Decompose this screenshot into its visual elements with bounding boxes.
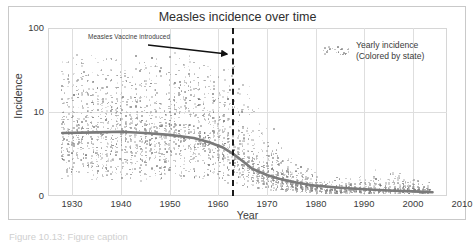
y-tick-100: 100 [28,22,44,33]
x-tick-2010: 2010 [452,198,473,209]
legend-swatch-dot [332,48,334,50]
legend-swatch-dot [329,48,331,50]
x-tick-1970: 1970 [257,198,278,209]
legend-swatch-dot [342,54,344,56]
legend-line-1: Yearly incidence [356,40,424,51]
x-axis-label: Year [48,209,447,221]
legend-swatch-dot [324,47,326,49]
x-tick-2000: 2000 [403,198,424,209]
y-tick-10: 10 [34,106,44,117]
x-tick-1940: 1940 [111,198,132,209]
chart-title: Measles incidence over time [0,10,475,24]
legend: Yearly incidence (Colored by state) [318,40,424,61]
legend-swatch-dot [336,52,338,54]
legend-text-block: Yearly incidence (Colored by state) [356,40,424,61]
legend-swatch-dot [338,52,340,54]
legend-swatch-dot [326,51,328,53]
legend-line-2: (Colored by state) [356,51,424,62]
legend-swatch-dot [337,46,339,48]
x-tick-1930: 1930 [62,198,83,209]
legend-swatch-scatter [318,42,350,58]
legend-swatch-dot [324,53,326,55]
x-tick-1990: 1990 [354,198,375,209]
legend-swatch-dot [334,49,336,51]
legend-swatch-dot [340,54,342,56]
legend-swatch-dot [323,50,325,52]
figure-caption: Figure 10.13: Figure caption [9,231,128,244]
y-tick-0: 0 [39,190,44,201]
x-tick-1950: 1950 [160,198,181,209]
x-tick-1960: 1960 [208,198,229,209]
x-tick-1980: 1980 [306,198,327,209]
figure-container: Measles incidence over time Incidence 10… [0,0,475,244]
vaccine-annotation-arrow [146,38,234,58]
y-axis-ticks: 100 10 0 [10,28,44,196]
